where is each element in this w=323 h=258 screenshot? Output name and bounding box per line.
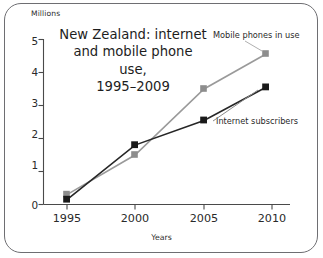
chart-figure: Millions New Zealand: internet and mobil… [0,0,323,258]
series-line-internet-subscribers [67,87,266,199]
y-axis-ticks [39,40,44,205]
chart-plot-area [0,0,323,258]
series-line-mobile-phones [67,54,266,195]
leader-line-mobile-phones [245,41,262,51]
x-axis-ticks [67,205,272,210]
series-markers-mobile-phones [63,50,269,197]
leader-line-internet-subscribers [213,90,258,121]
